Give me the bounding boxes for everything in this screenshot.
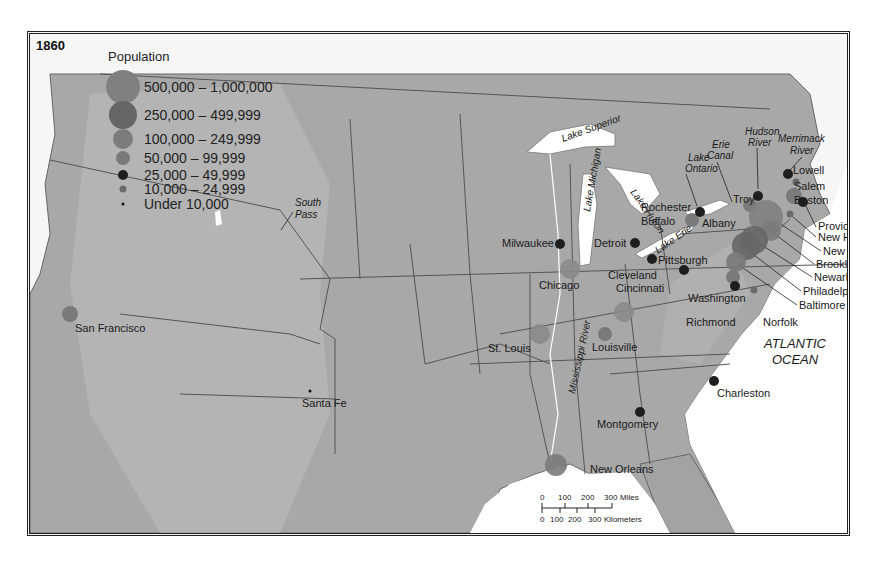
- city-label: Cincinnati: [616, 282, 664, 294]
- city-label: San Francisco: [75, 322, 145, 334]
- legend-label: Under 10,000: [144, 196, 229, 212]
- map-frame: San FranciscoSanta FeSt. LouisLouisville…: [27, 31, 850, 536]
- ocean-label-line-1: ATLANTIC: [763, 336, 826, 351]
- city-marker: [695, 207, 705, 217]
- city-marker: [647, 254, 657, 264]
- legend-swatch: [109, 101, 137, 129]
- legend-swatch: [122, 203, 125, 206]
- legend-title: Population: [108, 49, 169, 64]
- ocean-label-line-2: OCEAN: [772, 352, 819, 367]
- city-label: Albany: [702, 217, 736, 229]
- city-marker: [530, 324, 550, 344]
- legend-swatch: [116, 151, 130, 165]
- city-label: Santa Fe: [302, 397, 347, 409]
- city-marker: [709, 376, 719, 386]
- legend-swatch: [120, 186, 127, 193]
- scale-miles-label: Miles: [620, 493, 639, 502]
- city-label: Troy: [733, 193, 755, 205]
- feature-label: South: [295, 197, 322, 208]
- feature-label: River: [790, 145, 814, 156]
- city-label: Newark: [814, 271, 847, 283]
- city-label: Cleveland: [608, 269, 657, 281]
- legend-label: 500,000 – 1,000,000: [144, 79, 273, 95]
- map-canvas: San FranciscoSanta FeSt. LouisLouisville…: [30, 34, 847, 533]
- city-marker: [679, 265, 689, 275]
- legend-label: 100,000 – 249,999: [144, 131, 261, 147]
- scale-km-label: Kilometers: [604, 515, 642, 524]
- scale-km-200: 200: [568, 515, 582, 524]
- scale-mile-100: 100: [558, 493, 572, 502]
- city-label: Norfolk: [763, 316, 798, 328]
- city-label: Baltimore: [799, 299, 845, 311]
- city-marker: [560, 259, 580, 279]
- scale-mile-300: 300: [604, 493, 618, 502]
- scale-km-100: 100: [550, 515, 564, 524]
- city-label: Philadelphia: [803, 285, 847, 297]
- feature-label: Merrimack: [778, 133, 826, 144]
- city-marker: [783, 169, 793, 179]
- scale-km-0: 0: [540, 515, 545, 524]
- city-marker: [798, 197, 808, 207]
- city-label: Detroit: [594, 237, 626, 249]
- city-label: Milwaukee: [502, 237, 554, 249]
- legend-swatch: [113, 129, 133, 149]
- city-label: Montgomery: [597, 418, 659, 430]
- city-marker: [545, 454, 567, 476]
- city-marker: [62, 306, 78, 322]
- city-marker: [614, 302, 634, 322]
- feature-label: Hudson: [745, 126, 780, 137]
- legend-swatch: [118, 170, 128, 180]
- feature-label: Pass: [295, 209, 317, 220]
- city-marker: [598, 327, 612, 341]
- city-marker: [630, 238, 640, 248]
- legend-label: 50,000 – 99,999: [144, 150, 245, 166]
- city-label: Pittsburgh: [658, 254, 708, 266]
- city-label: Louisville: [592, 341, 637, 353]
- feature-label: Ontario: [685, 163, 718, 174]
- city-marker: [309, 390, 312, 393]
- city-label: St. Louis: [488, 342, 531, 354]
- city-marker: [635, 407, 645, 417]
- city-marker: [751, 287, 758, 294]
- city-marker: [730, 281, 740, 291]
- city-marker: [555, 239, 565, 249]
- city-label: Lowell: [793, 164, 824, 176]
- feature-label: Canal: [707, 150, 734, 161]
- legend-label: 250,000 – 499,999: [144, 107, 261, 123]
- feature-label: Erie: [712, 139, 730, 150]
- city-label: Charleston: [717, 387, 770, 399]
- map-year: 1860: [36, 38, 65, 53]
- feature-label: River: [748, 137, 772, 148]
- city-label: Washington: [688, 292, 746, 304]
- city-marker: [787, 211, 794, 218]
- city-label: New Orleans: [590, 463, 654, 475]
- city-label: New Haven: [818, 231, 847, 243]
- legend-label: 10,000 – 24,999: [144, 181, 245, 197]
- city-label: New York: [823, 245, 847, 257]
- city-label: Chicago: [539, 279, 579, 291]
- city-label: Brooklyn: [816, 258, 847, 270]
- city-label: Richmond: [686, 316, 736, 328]
- legend-swatch: [106, 70, 140, 104]
- scale-mile-0: 0: [540, 493, 545, 502]
- scale-mile-200: 200: [581, 493, 595, 502]
- scale-km-300: 300: [588, 515, 602, 524]
- city-marker: [726, 252, 746, 272]
